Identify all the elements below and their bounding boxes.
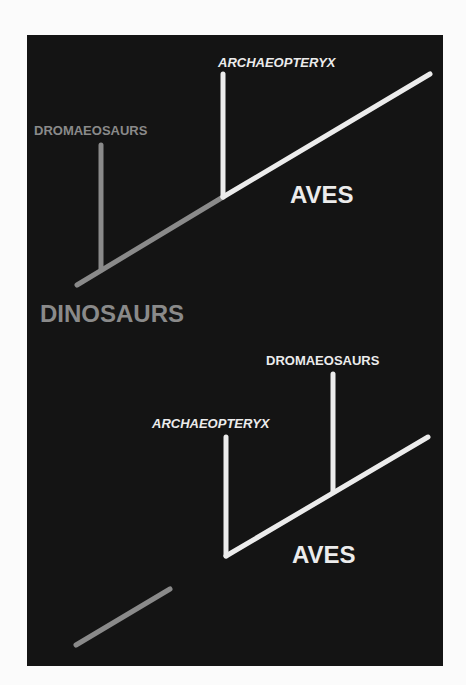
bottom-cladogram bbox=[76, 374, 428, 645]
top-archaeopteryx-label: ARCHAEOPTERYX bbox=[218, 56, 336, 69]
top-cladogram bbox=[77, 74, 430, 285]
top-dromaeosaurs-label: DROMAEOSAURS bbox=[34, 124, 147, 137]
cladogram-lines bbox=[0, 0, 466, 685]
bottom-aves-label: AVES bbox=[292, 543, 356, 567]
bottom-dinosaur-stem-line bbox=[76, 589, 170, 645]
dinosaurs-label: DINOSAURS bbox=[40, 302, 184, 326]
top-aves-stem-line bbox=[223, 74, 430, 197]
bottom-dromaeosaurs-label: DROMAEOSAURS bbox=[266, 354, 379, 367]
bottom-archaeopteryx-label: ARCHAEOPTERYX bbox=[152, 417, 270, 430]
bottom-aves-stem-line bbox=[226, 437, 428, 556]
top-aves-label: AVES bbox=[290, 183, 354, 207]
